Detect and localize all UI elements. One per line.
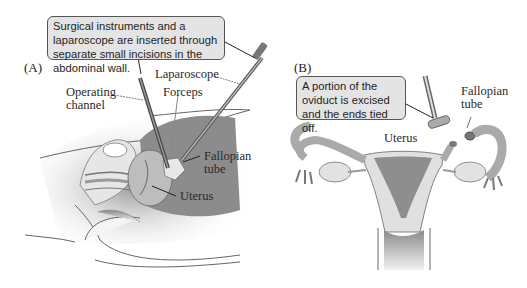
laparoscope-label: Laparoscope <box>155 68 219 81</box>
laparoscopic-tubal-ligation-figure: (A) Surgical instruments and a laparosco… <box>0 0 527 288</box>
panel-a-fallopian-tube-label-line2: tube <box>204 163 226 176</box>
panel-b-uterus-label: Uterus <box>384 132 417 145</box>
panel-b-label: (B) <box>294 60 311 76</box>
forceps-label: Forceps <box>163 86 203 99</box>
panel-a-label: (A) <box>24 60 42 76</box>
panel-b-callout: A portion of the oviduct is excised and … <box>296 76 406 120</box>
panel-a-uterus-label: Uterus <box>180 190 213 203</box>
panel-a-callout: Surgical instruments and a laparoscope a… <box>47 16 225 60</box>
operating-channel-label-line2: channel <box>66 99 105 112</box>
panel-b-fallopian-tube-label-line2: tube <box>461 98 483 111</box>
